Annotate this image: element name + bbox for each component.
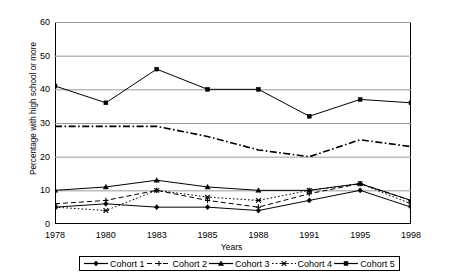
x-tick-label: 1978 bbox=[35, 230, 75, 240]
data-point-marker bbox=[344, 262, 348, 266]
y-tick-label: 40 bbox=[40, 85, 50, 94]
diamond-marker-icon bbox=[83, 258, 109, 269]
data-point-marker bbox=[55, 84, 57, 88]
x-tick-label: 1980 bbox=[86, 230, 126, 240]
legend-item-cohort-4: Cohort 4 bbox=[271, 257, 334, 270]
legend-item-cohort-5: Cohort 5 bbox=[333, 257, 396, 270]
legend-label: Cohort 5 bbox=[359, 259, 396, 269]
x-tick-label: 1998 bbox=[391, 230, 431, 240]
data-point-marker bbox=[257, 87, 261, 91]
data-point-marker bbox=[104, 101, 108, 105]
data-point-marker bbox=[206, 87, 210, 91]
chart-svg bbox=[55, 22, 411, 224]
triangle-marker-icon bbox=[208, 258, 234, 269]
data-point-marker bbox=[307, 114, 311, 118]
x-tick-label: 1991 bbox=[289, 230, 329, 240]
data-point-marker bbox=[358, 98, 362, 102]
x-tick-label: 1985 bbox=[188, 230, 228, 240]
legend-label: Cohort 4 bbox=[297, 259, 334, 269]
chart-legend: Cohort 1Cohort 2Cohort 3Cohort 4Cohort 5 bbox=[79, 256, 400, 271]
x-tick-label: 1995 bbox=[340, 230, 380, 240]
y-tick-label: 60 bbox=[40, 18, 50, 27]
chart-container: Percentage with high school or more 0102… bbox=[0, 0, 463, 277]
y-tick-label: 50 bbox=[40, 51, 50, 60]
legend-label: Cohort 1 bbox=[109, 259, 146, 269]
data-point-marker bbox=[94, 261, 99, 266]
legend-item-cohort-1: Cohort 1 bbox=[83, 257, 146, 270]
y-tick-label: 10 bbox=[40, 186, 50, 195]
legend-item-cohort-3: Cohort 3 bbox=[208, 257, 271, 270]
x-tick-label: 1988 bbox=[238, 230, 278, 240]
data-point-marker bbox=[281, 261, 287, 266]
data-point-marker bbox=[409, 101, 411, 105]
plot-area bbox=[55, 22, 411, 224]
square-marker-icon bbox=[333, 258, 359, 269]
y-tick-label: 30 bbox=[40, 119, 50, 128]
x-marker-icon bbox=[271, 258, 297, 269]
x-tick-label: 1983 bbox=[137, 230, 177, 240]
x-axis-title: Years bbox=[0, 242, 463, 252]
plus-marker-icon bbox=[146, 258, 172, 269]
legend-label: Cohort 2 bbox=[172, 259, 209, 269]
y-tick-label: 0 bbox=[45, 220, 50, 229]
legend-label: Cohort 3 bbox=[234, 259, 271, 269]
data-point-marker bbox=[155, 67, 159, 71]
data-point-marker bbox=[156, 261, 161, 266]
legend-item-cohort-2: Cohort 2 bbox=[146, 257, 209, 270]
y-tick-label: 20 bbox=[40, 152, 50, 161]
